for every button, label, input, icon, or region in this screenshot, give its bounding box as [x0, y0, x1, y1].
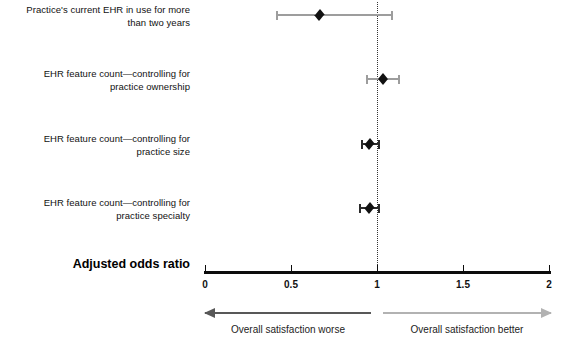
x-axis-tick-label: 2	[546, 279, 552, 290]
estimate-marker	[378, 73, 388, 79]
arrow-better-label: Overall satisfaction better	[411, 324, 524, 335]
row-label-feature-count-size: EHR feature count—controlling for practi…	[0, 133, 190, 158]
arrow-worse-label: Overall satisfaction worse	[231, 324, 345, 335]
confidence-interval-cap	[366, 75, 368, 84]
row-label-ehr-two-years: Practice's current EHR in use for more t…	[0, 4, 190, 29]
estimate-marker	[365, 138, 375, 144]
estimate-marker	[315, 9, 325, 15]
x-axis-tick-label: 1	[374, 279, 380, 290]
confidence-interval-cap	[361, 140, 363, 149]
reference-line-or-1	[377, 2, 378, 271]
row-label-line: practice specialty	[0, 210, 190, 223]
confidence-interval-cap	[359, 204, 361, 213]
row-label-line: practice size	[0, 146, 190, 159]
x-axis-tick	[377, 265, 379, 271]
x-axis-tick	[549, 265, 551, 271]
x-axis-line	[204, 271, 551, 274]
row-label-feature-count-ownership: EHR feature count—controlling for practi…	[0, 68, 190, 93]
x-axis-title: Adjusted odds ratio	[73, 257, 190, 271]
confidence-interval-cap	[391, 11, 393, 20]
arrow-worse-icon	[205, 312, 371, 315]
row-label-feature-count-specialty: EHR feature count—controlling for practi…	[0, 197, 190, 222]
confidence-interval-cap	[398, 75, 400, 84]
x-axis-tick-label: 1.5	[456, 279, 470, 290]
row-label-line: practice ownership	[0, 81, 190, 94]
estimate-marker	[365, 202, 375, 208]
confidence-interval-cap	[378, 140, 380, 149]
x-axis-tick	[291, 265, 293, 271]
x-axis-tick	[463, 265, 465, 271]
row-label-line: EHR feature count—controlling for	[0, 68, 190, 81]
confidence-interval-line	[277, 14, 392, 16]
confidence-interval-cap	[378, 204, 380, 213]
forest-plot: Practice's current EHR in use for more t…	[0, 0, 562, 346]
row-label-line: than two years	[0, 17, 190, 30]
row-label-line: EHR feature count—controlling for	[0, 197, 190, 210]
x-axis-tick-label: 0	[202, 279, 208, 290]
x-axis-tick-label: 0.5	[284, 279, 298, 290]
row-label-line: Practice's current EHR in use for more	[0, 4, 190, 17]
confidence-interval-cap	[276, 11, 278, 20]
row-label-line: EHR feature count—controlling for	[0, 133, 190, 146]
x-axis-tick	[205, 265, 207, 271]
arrow-better-icon	[383, 312, 551, 315]
